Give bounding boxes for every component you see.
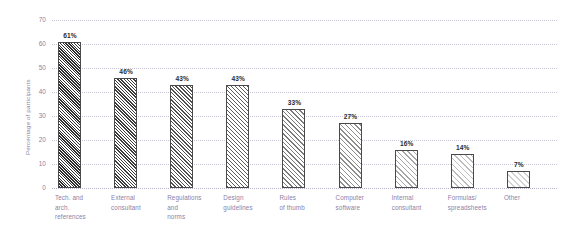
bar-chart: Percentage of participants 0102030405060… [0,0,569,235]
x-axis-category-label: Tech. andarch.references [55,193,107,222]
x-axis-category-label-line: consultant [392,203,444,213]
bar [339,123,362,188]
y-axis-tick-label: 40 [16,89,46,95]
x-axis-category-label: Computersoftware [336,193,388,212]
bar-value-label: 43% [164,75,200,83]
bar-hatch-fill [340,124,361,187]
y-axis-tick-labels: 010203040506070 [14,20,46,188]
x-axis-category-label: Designguidelines [223,193,275,212]
x-axis-category-label-line: Computer [336,193,388,203]
x-axis-category-label: Regulationsandnorms [167,193,219,222]
gridline [52,188,557,189]
x-axis-category-label-line: and [167,203,219,213]
bar-value-label: 27% [333,113,369,121]
bar-hatch-fill [396,151,417,187]
bar-hatch-fill [452,155,473,187]
bar [58,42,81,188]
x-axis-category-label-line: norms [167,212,219,222]
bar-hatch-fill [227,86,248,187]
bar-hatch-fill [283,110,304,187]
bar-value-label: 46% [108,68,144,76]
x-axis-category-label-line: references [55,212,107,222]
bar-value-label: 33% [276,99,312,107]
x-axis-category-label-line: guidelines [223,203,275,213]
y-axis-tick-label: 0 [16,185,46,191]
x-axis-category-label-line: Other [504,193,556,203]
y-axis-tick-label: 10 [16,161,46,167]
bar [395,150,418,188]
x-axis-category-label: Formulas/spreadsheets [448,193,500,212]
y-axis-tick-label: 50 [16,65,46,71]
y-axis-tick-label: 70 [16,17,46,23]
x-axis-category-label-line: consultant [111,203,163,213]
bar-hatch-fill [115,79,136,187]
x-axis-category-label-line: arch. [55,203,107,213]
bar-hatch-fill [508,172,529,187]
gridline [52,44,557,45]
x-axis-category-label-line: Formulas/ [448,193,500,203]
bar-value-label: 61% [52,32,88,40]
plot-area: 61%46%43%43%33%27%16%14%7% [52,20,557,188]
bar-hatch-fill [59,43,80,187]
x-axis-category-label-line: of thumb [279,203,331,213]
y-axis-tick-label: 30 [16,113,46,119]
x-axis-category-label: Other [504,193,556,203]
bar [226,85,249,188]
x-axis-category-label-line: External [111,193,163,203]
bar-value-label: 43% [220,75,256,83]
x-axis-category-label: Externalconsultant [111,193,163,212]
bar-hatch-fill [171,86,192,187]
x-axis-category-label-line: Internal [392,193,444,203]
x-axis-category-label-line: Tech. and [55,193,107,203]
y-axis-tick-label: 20 [16,137,46,143]
x-axis-category-label-line: Design [223,193,275,203]
bar-value-label: 14% [445,144,481,152]
x-axis-category-label-line: Rules [279,193,331,203]
y-axis-tick-label: 60 [16,41,46,47]
x-axis-category-labels: Tech. andarch.referencesExternalconsulta… [52,193,557,235]
bar-value-label: 16% [389,140,425,148]
x-axis-category-label: Rulesof thumb [279,193,331,212]
x-axis-category-label-line: spreadsheets [448,203,500,213]
bar [282,109,305,188]
bar [507,171,530,188]
bar [451,154,474,188]
x-axis-category-label-line: software [336,203,388,213]
bar [114,78,137,188]
gridline [52,20,557,21]
bar-value-label: 7% [501,161,537,169]
bar [170,85,193,188]
x-axis-category-label-line: Regulations [167,193,219,203]
x-axis-category-label: Internalconsultant [392,193,444,212]
